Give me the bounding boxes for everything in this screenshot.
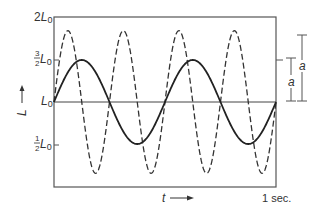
amplitude-label-outer: a: [299, 59, 306, 73]
svg-text:L0: L0: [41, 94, 53, 109]
x-end-label: 1 sec.: [262, 192, 291, 204]
y-label-half-l0: 1 2 L0: [34, 134, 52, 153]
amplitude-label-inner: a: [288, 75, 295, 89]
amplitude-markers: a a: [276, 35, 307, 101]
svg-text:L0: L0: [40, 137, 52, 152]
svg-text:t: t: [162, 191, 166, 205]
y-label-l0: L0: [41, 94, 53, 109]
svg-text:L: L: [15, 109, 29, 116]
svg-text:L0: L0: [40, 52, 52, 67]
y-label-2l0: 2L0: [34, 10, 52, 25]
oscillation-diagram: 2L0 3 2 L0 L0 1 2 L0 L t 1 sec. a: [0, 0, 318, 216]
svg-text:2L0: 2L0: [34, 10, 52, 25]
y-label-three-halves-l0: 3 2 L0: [34, 49, 52, 68]
x-axis-title: t: [162, 191, 194, 205]
y-axis-title: L: [15, 85, 29, 116]
